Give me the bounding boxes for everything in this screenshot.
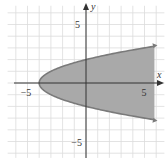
x-tick-label-neg5: −5: [21, 87, 32, 98]
y-axis-label: y: [90, 1, 96, 12]
x-axis-label: x: [156, 69, 162, 80]
y-tick-label-neg5: −5: [71, 137, 82, 148]
y-tick-label-5: 5: [75, 19, 80, 30]
graph: x y −5 5 5 −5: [0, 0, 168, 163]
x-tick-label-5: 5: [142, 87, 147, 98]
